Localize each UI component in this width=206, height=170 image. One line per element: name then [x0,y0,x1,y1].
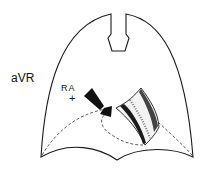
lead-label: aVR [11,72,34,84]
vector-arrow-tail [84,88,104,110]
dashed-line-left [42,109,107,155]
thorax-diagram [0,0,206,170]
positive-pole-symbol: + [69,93,75,104]
